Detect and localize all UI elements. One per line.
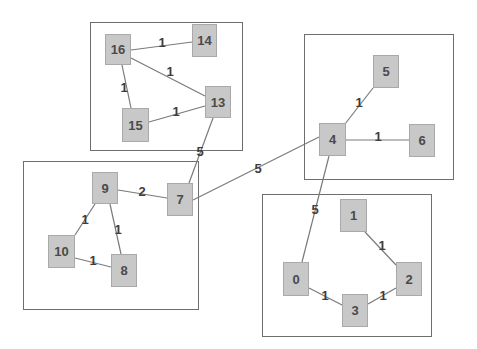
edge-weight-label: 1 — [374, 129, 381, 144]
edge-4-6: 1 — [346, 129, 409, 144]
graph-node-0[interactable]: 0 — [283, 262, 309, 296]
graph-node-13[interactable]: 13 — [205, 86, 231, 118]
edge-16-13: 1 — [131, 58, 205, 96]
graph-node-7[interactable]: 7 — [167, 183, 193, 216]
edge-weight-label: 5 — [311, 202, 318, 217]
edge-weight-label: 1 — [378, 238, 385, 253]
graph-node-3[interactable]: 3 — [342, 294, 368, 327]
graph-node-5[interactable]: 5 — [373, 55, 399, 88]
edge-weight-label: 1 — [81, 212, 88, 227]
edge-weight-label: 1 — [89, 253, 96, 268]
node-label: 4 — [329, 132, 336, 147]
node-label: 10 — [54, 244, 68, 259]
edge-9-8: 1 — [110, 204, 122, 254]
graph-node-15[interactable]: 15 — [122, 108, 149, 142]
node-label: 5 — [382, 64, 389, 79]
edge-13-7: 5 — [189, 118, 213, 183]
graph-node-9[interactable]: 9 — [92, 172, 118, 204]
node-label: 16 — [111, 42, 125, 57]
node-label: 14 — [197, 33, 211, 48]
edge-10-8: 1 — [75, 253, 111, 268]
edge-weight-label: 1 — [158, 35, 165, 50]
edge-4-5: 1 — [345, 88, 373, 124]
edge-4-0: 5 — [302, 156, 329, 262]
edge-weight-label: 1 — [321, 288, 328, 303]
graph-node-6[interactable]: 6 — [409, 124, 435, 157]
edge-15-13: 1 — [149, 104, 205, 122]
edge-weight-label: 5 — [254, 161, 261, 176]
edge-7-4: 5 — [193, 137, 319, 200]
graph-node-16[interactable]: 16 — [105, 34, 131, 65]
node-label: 6 — [418, 133, 425, 148]
node-label: 3 — [351, 303, 358, 318]
edge-weight-label: 5 — [196, 144, 203, 159]
node-label: 15 — [128, 118, 142, 133]
graph-node-1[interactable]: 1 — [340, 199, 367, 232]
graph-canvas: 1111521115115111 01234567891013141516 — [0, 0, 477, 349]
edge-weight-label: 1 — [114, 222, 121, 237]
edge-weight-label: 1 — [172, 104, 179, 119]
graph-node-4[interactable]: 4 — [319, 123, 346, 156]
graph-node-2[interactable]: 2 — [396, 262, 422, 296]
edge-weight-label: 1 — [120, 80, 127, 95]
graph-node-8[interactable]: 8 — [111, 254, 137, 287]
edge-3-2: 1 — [368, 288, 396, 304]
edge-16-14: 1 — [131, 35, 192, 50]
edge-weight-label: 2 — [138, 184, 145, 199]
edge-layer: 1111521115115111 — [0, 0, 477, 349]
edge-weight-label: 1 — [166, 64, 173, 79]
edge-weight-label: 1 — [355, 95, 362, 110]
edge-1-2: 1 — [365, 232, 396, 265]
node-label: 9 — [101, 181, 108, 196]
edge-0-3: 1 — [309, 288, 342, 305]
node-label: 13 — [211, 95, 225, 110]
node-label: 0 — [292, 272, 299, 287]
node-label: 2 — [405, 272, 412, 287]
edge-16-15: 1 — [120, 65, 131, 108]
edge-weight-label: 1 — [379, 288, 386, 303]
graph-node-14[interactable]: 14 — [192, 24, 217, 57]
edge-9-7: 2 — [118, 184, 167, 199]
edge-9-10: 1 — [75, 204, 95, 235]
node-label: 7 — [176, 192, 183, 207]
node-label: 8 — [120, 263, 127, 278]
node-label: 1 — [350, 208, 357, 223]
graph-node-10[interactable]: 10 — [48, 235, 75, 268]
